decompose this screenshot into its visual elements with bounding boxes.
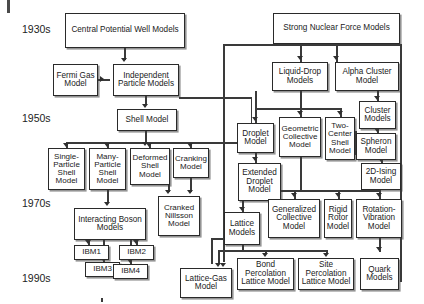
connector-arrow (374, 96, 380, 100)
diagram-canvas: Central Potential Well ModelsFermi Gas M… (0, 0, 424, 304)
node-droplet-model[interactable]: Droplet Model (237, 123, 274, 153)
connector-line (145, 131, 146, 142)
connector-arrow (104, 143, 110, 147)
node-spheron-model[interactable]: Spheron Model (356, 133, 396, 160)
node-shell-model[interactable]: Shell Model (117, 109, 177, 131)
node-rotation-vibration-model[interactable]: Rotation-Vibration Model (356, 199, 402, 238)
node-bond-percolation-lattice-model[interactable]: Bond Percolation Lattice Model (237, 258, 294, 290)
node-generalized-collective-model[interactable]: Generalized Collective Model (268, 199, 320, 238)
connector-line (242, 245, 243, 251)
connector-line (211, 238, 212, 264)
node-strong-nuclear-force-models[interactable]: Strong Nuclear Force Models (273, 13, 400, 44)
connector-arrow (323, 253, 329, 257)
era-label-1930s: 1930s (22, 23, 51, 35)
connector-arrow (252, 117, 258, 121)
connector-arrow (104, 202, 110, 206)
node-cranked-nillsson-model[interactable]: Cranked Nillsson Model (158, 196, 200, 236)
connector-arrow (142, 104, 148, 108)
connector-line (179, 97, 252, 98)
connector-arrow (252, 157, 258, 161)
node-2d-ising-model[interactable]: 2D-Ising Model (361, 163, 401, 190)
connector-arrow (121, 58, 127, 62)
era-label-1950s: 1950s (22, 112, 51, 124)
connector-arrow (291, 193, 297, 197)
node-single-particle-shell-model[interactable]: Single-Particle Shell Model (48, 148, 85, 190)
connector-line (223, 44, 401, 45)
node-two-center-shell-model[interactable]: Two-Center Shell Model (325, 117, 355, 160)
node-many-particle-shell-model[interactable]: Many-Particle Shell Model (89, 148, 126, 190)
connector-arrow (165, 190, 171, 194)
node-central-potential-well-models[interactable]: Central Potential Well Models (65, 13, 185, 48)
node-cluster-models[interactable]: Cluster Models (359, 101, 396, 129)
node-extended-droplet-model[interactable]: Extended Droplet Model (238, 163, 281, 201)
node-fermi-gas-model[interactable]: Fermi Gas Model (53, 64, 98, 96)
connector-line (300, 91, 301, 109)
node-ibm2[interactable]: IBM2 (119, 245, 154, 260)
connector-arrow (335, 193, 341, 197)
connector-line (218, 250, 219, 264)
node-ibm4[interactable]: IBM4 (113, 264, 148, 279)
connector-line (218, 250, 328, 251)
node-alpha-cluster-model[interactable]: Alpha Cluster Model (335, 62, 399, 91)
connector-arrow (63, 143, 69, 147)
connector-arrow (133, 240, 139, 244)
connector-arrow (297, 111, 303, 115)
edge-mark (7, 0, 10, 13)
node-geometric-collective-model[interactable]: Geometric Collective Model (279, 117, 321, 157)
node-lattice-models[interactable]: Lattice Models (224, 212, 260, 245)
connector-arrow (262, 253, 268, 257)
node-quark-models[interactable]: Quark Models (360, 258, 399, 290)
node-lattice-gas-model[interactable]: Lattice-Gas Model (180, 268, 232, 298)
connector-line (255, 91, 256, 109)
connector-arrow (100, 76, 104, 82)
node-interacting-boson-models[interactable]: Interacting Boson Models (74, 208, 146, 240)
node-independent-particle-models[interactable]: Independent Particle Models (113, 64, 179, 96)
connector-arrow (146, 143, 152, 147)
connector-arrow (187, 190, 193, 194)
connector-arrow (187, 143, 193, 147)
connector-arrow (85, 240, 91, 244)
node-ibm1[interactable]: IBM1 (74, 245, 109, 260)
node-cranking-model[interactable]: Cranking Model (173, 148, 209, 178)
connector-arrow (297, 56, 303, 60)
connector-line (300, 157, 301, 190)
connector-arrow (337, 111, 343, 115)
connector-arrow (220, 263, 226, 267)
node-site-percolation-lattice-model[interactable]: Site Percolation Lattice Model (298, 258, 354, 290)
connector-arrow (376, 247, 382, 251)
node-deformed-shell-model[interactable]: Deformed Shell Model (130, 148, 170, 185)
era-label-1970s: 1970s (22, 197, 51, 209)
connector-line (255, 108, 340, 109)
connector-line (211, 238, 224, 239)
connector-arrow (333, 56, 339, 60)
node-liquid-drop-models[interactable]: Liquid-Drop Models (272, 62, 328, 91)
era-label-1990s: 1990s (22, 272, 51, 284)
node-rigid-rotor-model[interactable]: Rigid Rotor Model (324, 199, 352, 238)
connector-line (101, 298, 102, 302)
connector-arrow (239, 207, 245, 211)
connector-arrow (376, 193, 382, 197)
